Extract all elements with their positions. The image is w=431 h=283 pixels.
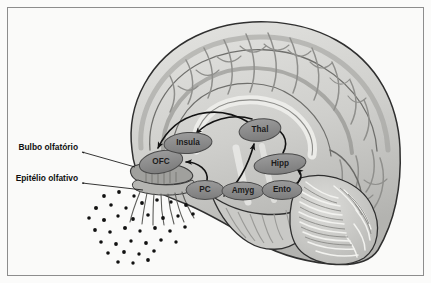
node-label-hipp: Hipp [271,159,289,168]
node-pc[interactable]: PC [186,181,224,200]
brain-diagram-artwork: OFC Insula Thal Hipp PC Amyg [0,0,431,283]
node-amyg[interactable]: Amyg [222,182,264,200]
node-label-thal: Thal [252,125,269,134]
annotation-labels: Bulbo olfatório Epitélio olfativo [16,142,143,190]
node-label-ento: Ento [273,185,291,194]
label-epitelio-olfativo: Epitélio olfativo [16,173,78,183]
olfactory-pathway-figure: OFC Insula Thal Hipp PC Amyg [0,0,431,283]
node-label-ofc: OFC [152,157,169,166]
label-bulbo-olfatorio: Bulbo olfatório [18,142,78,152]
node-label-amyg: Amyg [232,186,255,195]
node-ento[interactable]: Ento [262,181,302,200]
leader-line-bulbo [82,152,135,167]
node-label-insula: Insula [176,138,200,147]
node-label-pc: PC [199,185,210,194]
